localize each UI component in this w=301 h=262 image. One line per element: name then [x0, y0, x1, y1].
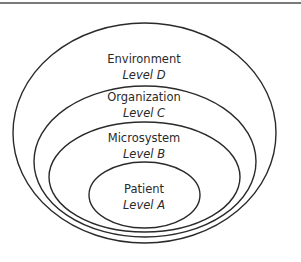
nested-levels-diagram: Environment Level D Organization Level C…	[0, 0, 301, 262]
patient-label: Patient	[124, 182, 165, 196]
organization-level-label: Level C	[123, 106, 165, 120]
patient-level-label: Level A	[123, 198, 165, 212]
microsystem-label: Microsystem	[108, 131, 181, 145]
environment-label: Environment	[107, 52, 181, 66]
microsystem-level-label: Level B	[123, 147, 165, 161]
environment-level-label: Level D	[122, 68, 165, 82]
microsystem-level: Microsystem Level B	[49, 122, 240, 232]
patient-level: Patient Level A	[89, 162, 200, 228]
organization-label: Organization	[107, 90, 181, 104]
